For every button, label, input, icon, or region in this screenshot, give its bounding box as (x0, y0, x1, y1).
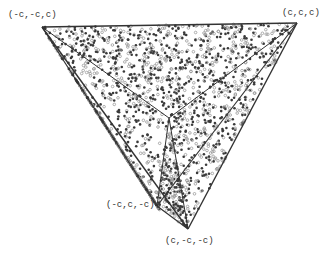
vertex-label-c-c-c: (c,c,c) (282, 8, 320, 18)
tetrahedron-diagram (0, 0, 331, 253)
vertex-label-c-neg-c-neg-c: (c,-c,-c) (165, 236, 214, 246)
scatter-points (42, 23, 294, 228)
vertex-label-neg-c-c-neg-c: (-c,c,-c) (106, 200, 155, 210)
vertex-label-neg-c-neg-c-c: (-c,-c,c) (8, 10, 57, 20)
